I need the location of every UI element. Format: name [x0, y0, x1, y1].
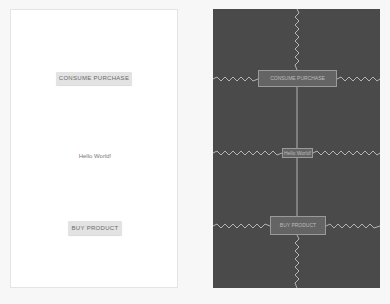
consume-purchase-button[interactable]: CONSUME PURCHASE	[56, 72, 132, 85]
blueprint-surface: CONSUME PURCHASE Hello World! BUY PRODUC…	[213, 9, 380, 288]
design-surface: CONSUME PURCHASE Hello World! BUY PRODUC…	[10, 9, 178, 288]
buy-product-button[interactable]: BUY PRODUCT	[68, 221, 122, 235]
blueprint-hello-world-text[interactable]: Hello World!	[282, 148, 313, 158]
blueprint-consume-purchase-button[interactable]: CONSUME PURCHASE	[258, 70, 337, 87]
hello-world-text[interactable]: Hello World!	[65, 151, 125, 161]
blueprint-buy-product-button[interactable]: BUY PRODUCT	[270, 216, 326, 235]
